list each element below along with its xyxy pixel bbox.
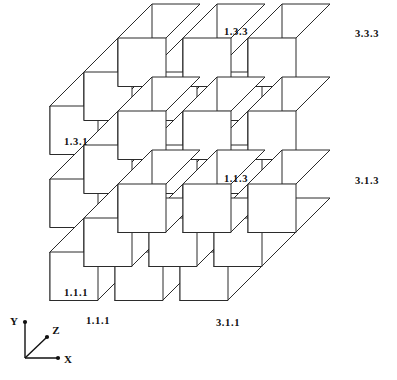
- axis-z-label: Z: [52, 324, 59, 336]
- axis-y-tip-dot: [23, 320, 27, 324]
- axis-x-label: X: [64, 353, 72, 365]
- cube-front-face: [183, 184, 231, 232]
- label-3-3-3: 3.3.3: [355, 28, 379, 39]
- label-3-1-1-bottom: 3.1.1: [216, 317, 240, 328]
- label-1-1-1-left: 1.1.1: [64, 287, 88, 298]
- diagram-root: 1.3.33.3.31.3.11.1.33.1.31.1.11.1.13.1.1…: [0, 0, 397, 380]
- label-1-3-1: 1.3.1: [64, 136, 88, 147]
- label-1-1-1-bottom: 1.1.1: [86, 315, 110, 326]
- axis-y-label: Y: [10, 315, 18, 327]
- label-1-1-3: 1.1.3: [224, 173, 248, 184]
- label-3-1-3: 3.1.3: [355, 175, 379, 186]
- cube-front-face: [248, 184, 296, 232]
- cube-front-face: [118, 184, 166, 232]
- label-1-3-3: 1.3.3: [224, 26, 248, 37]
- exploded-cube-lattice-figure: 1.3.33.3.31.3.11.1.33.1.31.1.11.1.13.1.1…: [0, 0, 397, 380]
- axis-x-tip-dot: [56, 356, 60, 360]
- axis-z-tip-dot: [45, 335, 49, 339]
